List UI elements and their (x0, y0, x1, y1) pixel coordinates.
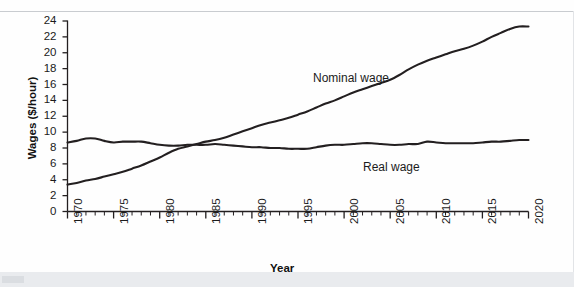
figure-container: 024681012141618202224 197019751980198519… (0, 0, 574, 287)
line-chart-canvas (0, 0, 574, 287)
x-tick-label: 2010 (441, 198, 453, 224)
x-axis-ticks (68, 212, 529, 219)
page-corner-mark (2, 276, 24, 283)
x-tick-label: 1990 (257, 198, 269, 224)
series-label-real-wage: Real wage (363, 160, 420, 174)
y-tick-label: 20 (35, 47, 57, 59)
x-tick-label: 2015 (487, 198, 499, 224)
series-label-nominal-wage: Nominal wage (313, 71, 389, 85)
x-tick-label: 2005 (395, 198, 407, 224)
y-tick-label: 0 (35, 206, 57, 218)
x-tick-label: 1970 (73, 198, 85, 224)
page-bottom-band (0, 272, 574, 287)
y-tick-label: 24 (35, 15, 57, 27)
x-tick-label: 2020 (534, 198, 546, 224)
x-tick-label: 1985 (211, 198, 223, 224)
series-line-real-wage (68, 138, 529, 149)
y-axis-ticks (63, 21, 68, 212)
y-tick-label: 22 (35, 31, 57, 43)
y-axis-title: Wages ($/hour) (26, 68, 38, 168)
x-tick-label: 1980 (165, 198, 177, 224)
data-series-lines (68, 26, 529, 184)
series-line-nominal-wage (68, 26, 529, 184)
x-tick-label: 1995 (303, 198, 315, 224)
x-tick-label: 2000 (349, 198, 361, 224)
x-tick-label: 1975 (119, 198, 131, 224)
y-tick-label: 2 (35, 190, 57, 202)
y-tick-label: 4 (35, 174, 57, 186)
